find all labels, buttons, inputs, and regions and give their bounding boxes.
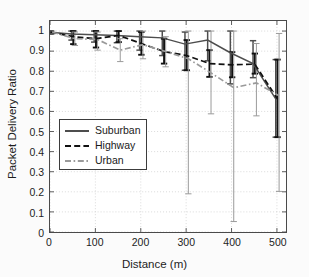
chart-legend: SuburbanHighwayUrban: [59, 119, 147, 170]
y-tick-label: 0.7: [18, 86, 44, 97]
x-axis-title: Distance (m): [0, 258, 309, 270]
y-tick-label: 0.1: [18, 208, 44, 219]
legend-label: Suburban: [95, 125, 141, 136]
legend-label: Urban: [95, 155, 124, 166]
x-tick-label: 200: [124, 237, 158, 248]
y-axis-title: Packet Delivery Ratio: [6, 49, 18, 199]
y-tick-label: 0.9: [18, 45, 44, 56]
legend-line-sample-icon: [64, 126, 90, 136]
legend-item-highway[interactable]: Highway: [64, 138, 142, 153]
y-tick-label: 0.6: [18, 106, 44, 117]
x-tick-label: 300: [169, 237, 203, 248]
x-tick-label: 400: [215, 237, 249, 248]
legend-line-sample-icon: [64, 141, 90, 151]
x-tick-label: 100: [78, 237, 112, 248]
legend-line-sample-icon: [64, 156, 90, 166]
y-tick-label: 0.3: [18, 167, 44, 178]
x-tick-label: 0: [32, 237, 66, 248]
y-tick-label: 0.5: [18, 127, 44, 138]
legend-item-suburban[interactable]: Suburban: [64, 123, 142, 138]
y-tick-label: 0.4: [18, 147, 44, 158]
chart-figure: 00.10.20.30.40.50.60.70.80.91 0100200300…: [0, 0, 309, 277]
y-tick-label: 1: [18, 25, 44, 36]
legend-item-urban[interactable]: Urban: [64, 153, 142, 168]
legend-label: Highway: [95, 140, 135, 151]
y-tick-label: 0.2: [18, 187, 44, 198]
x-tick-label: 500: [261, 237, 295, 248]
y-tick-label: 0.8: [18, 66, 44, 77]
